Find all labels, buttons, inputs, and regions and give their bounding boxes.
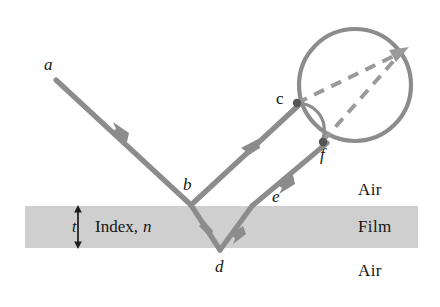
lens-arc (296, 103, 324, 141)
refractive-index-symbol: n (143, 217, 152, 236)
dashed-ray-from-c (297, 54, 398, 103)
point-marker-c (293, 99, 301, 107)
refractive-index-label: Index,n (95, 218, 151, 235)
refractive-index-label-text: Index, (95, 217, 138, 236)
point-label-f: f (320, 146, 325, 163)
thin-film-interference-figure: a b c d e f t Index,n Air Film Air (0, 0, 440, 307)
dashed-ray-from-f (323, 56, 398, 141)
ray-e-to-f (252, 143, 327, 206)
ray-a-to-b (56, 80, 191, 205)
observer-eye-circle (299, 29, 411, 141)
point-label-b: b (183, 176, 192, 193)
point-label-c: c (276, 90, 284, 107)
thickness-label-t: t (72, 219, 76, 235)
medium-label-film: Film (358, 218, 392, 235)
medium-label-air-top: Air (358, 181, 382, 198)
medium-label-air-bottom: Air (358, 262, 382, 279)
point-label-d: d (215, 258, 224, 275)
point-label-e: e (272, 188, 280, 205)
point-label-a: a (44, 56, 53, 73)
